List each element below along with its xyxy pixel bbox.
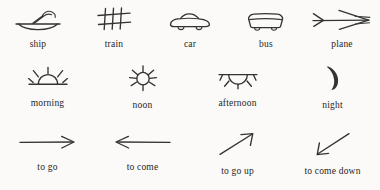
pictogram-label: to come bbox=[127, 163, 159, 173]
pictogram-label: night bbox=[322, 101, 343, 111]
pictogram-chart: ship train bbox=[0, 0, 380, 190]
pictogram-cell-bus: bus bbox=[228, 6, 304, 50]
pictogram-cell-to-go: to go bbox=[0, 131, 95, 177]
sunrise-icon bbox=[26, 64, 70, 90]
pictogram-label: bus bbox=[259, 40, 273, 50]
arrow-up-right-icon bbox=[214, 131, 262, 157]
pictogram-cell-plane: plane bbox=[304, 6, 380, 50]
bus-icon bbox=[243, 6, 289, 32]
pictogram-cell-night: night bbox=[285, 64, 380, 111]
pictogram-cell-morning: morning bbox=[0, 64, 95, 111]
pictogram-label: to come down bbox=[304, 167, 360, 177]
pictogram-cell-afternoon: afternoon bbox=[190, 64, 285, 111]
crescent-moon-icon bbox=[318, 64, 348, 92]
pictogram-cell-noon: noon bbox=[95, 64, 190, 111]
pictogram-cell-ship: ship bbox=[0, 6, 76, 50]
pictogram-cell-to-go-up: to go up bbox=[190, 131, 285, 177]
pictogram-label: noon bbox=[133, 101, 153, 111]
ship-icon bbox=[12, 6, 64, 32]
pictogram-label: ship bbox=[30, 40, 47, 50]
pictogram-label: to go bbox=[37, 163, 57, 173]
arrow-right-icon bbox=[17, 131, 79, 153]
pictogram-label: car bbox=[184, 40, 196, 50]
car-icon bbox=[167, 6, 213, 32]
sunset-icon bbox=[216, 64, 260, 90]
train-icon bbox=[94, 6, 134, 32]
pictogram-label: train bbox=[105, 40, 123, 50]
time-of-day-row: morning noon bbox=[0, 64, 380, 111]
plane-icon bbox=[311, 6, 373, 32]
pictogram-label: morning bbox=[31, 99, 65, 109]
pictogram-cell-to-come-down: to come down bbox=[285, 131, 380, 177]
transport-row: ship train bbox=[0, 6, 380, 50]
pictogram-label: plane bbox=[331, 40, 353, 50]
pictogram-cell-train: train bbox=[76, 6, 152, 50]
arrow-left-icon bbox=[112, 131, 174, 153]
motion-row: to go to come to go up bbox=[0, 131, 380, 177]
pictogram-cell-car: car bbox=[152, 6, 228, 50]
pictogram-label: afternoon bbox=[218, 99, 256, 109]
pictogram-cell-to-come: to come bbox=[95, 131, 190, 177]
arrow-down-left-icon bbox=[309, 131, 357, 157]
pictogram-label: to go up bbox=[221, 167, 254, 177]
sun-icon bbox=[123, 64, 163, 92]
